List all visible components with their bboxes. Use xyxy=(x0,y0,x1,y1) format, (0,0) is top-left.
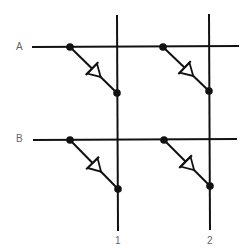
row-label-b: B xyxy=(16,133,23,144)
junction-dot xyxy=(205,87,213,95)
junction-dot xyxy=(66,43,74,51)
junction-dot xyxy=(66,136,74,144)
junction-dot xyxy=(206,182,214,190)
column-line-1 xyxy=(117,15,118,231)
diode-b1 xyxy=(66,136,122,193)
diode-a1 xyxy=(66,43,121,97)
row-label-a: A xyxy=(16,41,23,52)
junction-dot xyxy=(160,136,168,144)
diode-b2 xyxy=(160,136,214,190)
junction-dot xyxy=(159,43,167,51)
row-line-b xyxy=(33,139,237,140)
junction-dot xyxy=(113,89,121,97)
junction-dot xyxy=(114,185,122,193)
column-line-2 xyxy=(209,14,210,230)
diode-matrix-diagram: A B 1 2 xyxy=(0,0,251,252)
column-label-1: 1 xyxy=(115,235,121,246)
column-label-2: 2 xyxy=(207,235,213,246)
diode-a2 xyxy=(159,43,213,95)
row-line-a xyxy=(32,46,239,47)
